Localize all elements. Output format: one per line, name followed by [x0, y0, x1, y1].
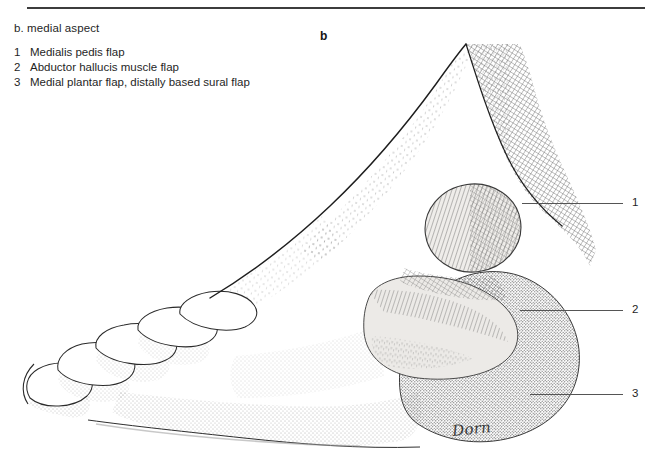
callout-leader-3 [530, 394, 623, 395]
legend-label: Medial plantar flap, distally based sura… [30, 75, 250, 90]
callout-number-1: 1 [632, 196, 638, 208]
figure-caption: b. medial aspect 1 Medialis pedis flap 2… [14, 22, 334, 90]
legend-label: Medialis pedis flap [30, 45, 125, 60]
figure-page: b. medial aspect 1 Medialis pedis flap 2… [0, 0, 672, 472]
legend-item-1: 1 Medialis pedis flap [14, 45, 334, 60]
legend-item-2: 2 Abductor hallucis muscle flap [14, 60, 334, 75]
callout-number-2: 2 [632, 303, 638, 315]
callout-leader-1 [522, 203, 623, 204]
legend-item-3: 3 Medial plantar flap, distally based su… [14, 75, 334, 90]
legend-label: Abductor hallucis muscle flap [30, 60, 179, 75]
legend-number: 2 [14, 60, 30, 75]
panel-letter: b [320, 29, 327, 43]
legend-number: 3 [14, 75, 30, 90]
callout-number-3: 3 [632, 387, 638, 399]
legend-number: 1 [14, 45, 30, 60]
callout-leader-2 [520, 310, 623, 311]
caption-title: b. medial aspect [14, 22, 334, 34]
